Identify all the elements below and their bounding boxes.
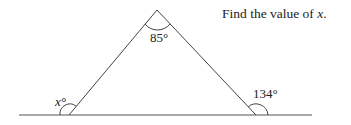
right-side <box>157 10 256 115</box>
left-side <box>69 10 157 115</box>
left-angle-label: x° <box>54 94 66 109</box>
triangle-diagram: 85° x° 134° <box>0 0 351 125</box>
right-angle-label: 134° <box>253 86 278 101</box>
apex-angle-label: 85° <box>150 30 168 45</box>
